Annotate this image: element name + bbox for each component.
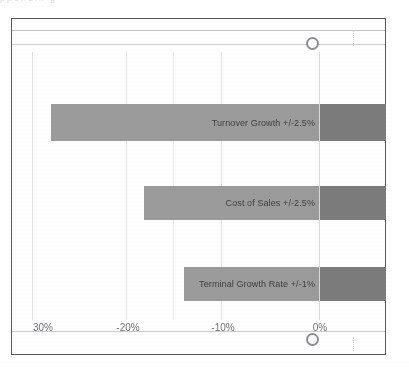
bar-row-terminal-growth-rate[interactable]: Terminal Growth Rate +/-1% (18, 267, 385, 301)
x-tick-minus30: 30% (33, 322, 53, 333)
bottom-center-handle[interactable] (306, 333, 319, 346)
selection-guide-right (353, 30, 354, 46)
bar-positive-terminal-growth-rate[interactable] (320, 267, 386, 301)
top-center-handle[interactable] (306, 37, 319, 50)
x-axis-tick-labels: 30% -20% -10% 0% (18, 322, 385, 342)
bar-row-turnover-growth[interactable]: Turnover Growth +/-2.5% (18, 104, 385, 141)
bar-label-terminal-growth-rate: Terminal Growth Rate +/-1% (164, 279, 315, 289)
bar-positive-turnover-growth[interactable] (320, 104, 386, 141)
x-tick-minus10: -10% (211, 322, 234, 333)
bar-label-cost-of-sales: Cost of Sales +/-2.5% (144, 198, 315, 208)
bar-positive-cost-of-sales[interactable] (320, 186, 386, 220)
chart-object-frame[interactable]: Turnover Growth +/-2.5% Cost of Sales +/… (11, 18, 386, 355)
x-tick-minus20: -20% (116, 322, 139, 333)
chart-top-rule-2 (12, 44, 385, 45)
bar-row-cost-of-sales[interactable]: Cost of Sales +/-2.5% (18, 186, 385, 220)
chart-top-rule-1 (12, 30, 385, 31)
x-tick-zero: 0% (313, 322, 327, 333)
page-top-cutoff-text: ppendix g (0, 0, 409, 11)
plot-area: Turnover Growth +/-2.5% Cost of Sales +/… (18, 52, 385, 320)
cutoff-text-fragment: ppendix g (0, 0, 57, 3)
bar-label-turnover-growth: Turnover Growth +/-2.5% (51, 118, 315, 128)
